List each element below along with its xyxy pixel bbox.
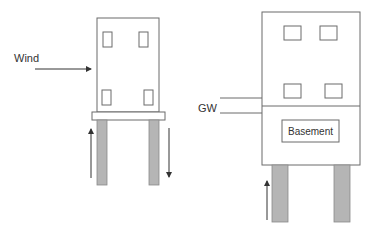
- window: [144, 90, 153, 105]
- pile-right: [149, 120, 159, 185]
- window: [139, 32, 148, 47]
- wind-label: Wind: [14, 52, 39, 64]
- window: [284, 84, 301, 98]
- pile-right: [334, 165, 350, 222]
- structural-diagram: Wind Basement GW: [0, 0, 374, 233]
- pile-left: [272, 165, 288, 222]
- left-diagram: Wind: [14, 18, 169, 185]
- window: [103, 32, 112, 47]
- right-diagram: Basement GW: [198, 12, 360, 222]
- pile-left: [97, 120, 107, 185]
- window: [325, 84, 342, 98]
- window: [284, 26, 301, 40]
- window: [320, 26, 337, 40]
- gw-label: GW: [198, 102, 218, 114]
- basement-label: Basement: [288, 126, 333, 137]
- pile-cap-slab: [92, 112, 165, 120]
- window: [102, 90, 111, 105]
